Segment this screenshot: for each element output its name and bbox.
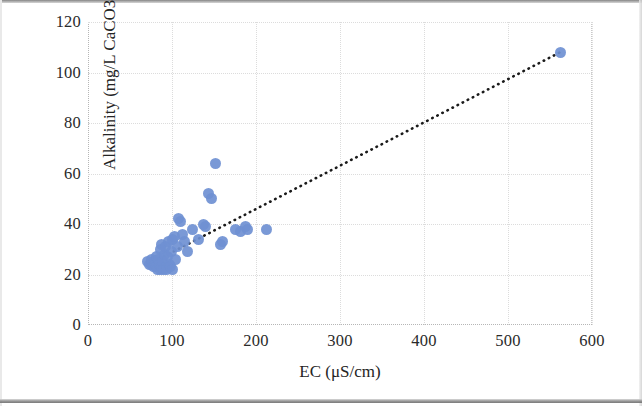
data-point	[242, 224, 253, 235]
y-tick-label: 120	[56, 12, 81, 32]
data-point	[261, 224, 272, 235]
data-point	[187, 224, 198, 235]
data-point	[193, 234, 204, 245]
scan-edge-top	[0, 0, 642, 3]
scatter-plot-area: 0100200300400500600 020406080100120	[88, 22, 592, 325]
x-tick-label: 200	[243, 331, 268, 351]
gridline-horizontal	[88, 22, 592, 23]
y-tick-label: 100	[56, 63, 81, 83]
y-tick-label: 60	[64, 164, 81, 184]
data-point	[210, 158, 221, 169]
data-point	[170, 254, 181, 265]
data-point	[175, 216, 186, 227]
y-tick-label: 0	[73, 315, 81, 335]
gridline-horizontal	[88, 123, 592, 124]
y-axis-title: Alkalinity (mg/L CaCO3)	[100, 0, 120, 198]
scan-edge-left	[0, 0, 2, 406]
x-tick-label: 0	[84, 331, 92, 351]
y-tick-label: 40	[64, 214, 81, 234]
y-tick-label: 20	[64, 265, 81, 285]
x-tick-label: 400	[411, 331, 436, 351]
gridline-vertical	[592, 22, 593, 325]
x-tick-label: 100	[159, 331, 184, 351]
x-tick-label: 300	[327, 331, 352, 351]
x-tick-label: 600	[579, 331, 604, 351]
y-tick-label: 80	[64, 113, 81, 133]
data-point	[182, 246, 193, 257]
gridline-horizontal	[88, 224, 592, 225]
scanned-figure-page: 0100200300400500600 020406080100120 EC (…	[0, 0, 642, 406]
scan-edge-bottom	[0, 399, 642, 403]
gridline-horizontal	[88, 73, 592, 74]
data-point	[217, 236, 228, 247]
gridline-horizontal	[88, 174, 592, 175]
x-tick-label: 500	[495, 331, 520, 351]
data-point	[555, 47, 566, 58]
x-axis-title: EC (μS/cm)	[88, 362, 592, 382]
